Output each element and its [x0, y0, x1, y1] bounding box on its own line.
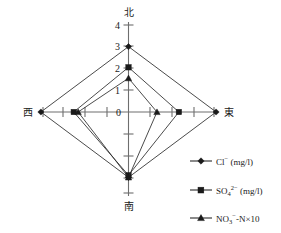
radar-chart-svg: 北 東 南 西 4 3 2 1 0 Cl− (mg/l) SO4	[0, 0, 281, 233]
chart-legend: Cl− (mg/l) SO42− (mg/l) NO3−-N×10	[190, 155, 262, 225]
square-marker	[126, 65, 131, 70]
square-marker	[176, 109, 181, 114]
direction-label-south: 南	[124, 200, 134, 212]
series-polygon	[74, 67, 179, 175]
legend-label-cl-tail: (mg/l)	[228, 157, 253, 167]
direction-label-east: 東	[224, 106, 234, 118]
legend-item-so4[interactable]: SO42− (mg/l)	[190, 184, 262, 197]
legend-label-so4-tail: (mg/l)	[238, 186, 263, 196]
legend-label-no3-base: NO	[216, 214, 229, 224]
legend-label-so4: SO42− (mg/l)	[216, 184, 262, 197]
legend-label-no3-tail: -N×10	[236, 214, 260, 224]
triangle-marker	[125, 75, 131, 81]
radar-chart-figure: 北 東 南 西 4 3 2 1 0 Cl− (mg/l) SO4	[0, 0, 281, 233]
tick-label-4: 4	[115, 20, 120, 31]
diamond-marker	[125, 44, 131, 50]
tick-label-2: 2	[115, 63, 120, 74]
legend-item-cl[interactable]: Cl− (mg/l)	[190, 155, 253, 166]
legend-label-so4-base: SO	[216, 186, 228, 196]
tick-label-origin: 0	[116, 107, 121, 118]
square-icon	[198, 187, 204, 193]
tick-label-1: 1	[115, 85, 120, 96]
diamond-icon	[198, 158, 204, 164]
direction-label-north: 北	[124, 7, 134, 18]
legend-item-no3[interactable]: NO3−-N×10	[190, 212, 260, 225]
legend-label-no3: NO3−-N×10	[216, 212, 260, 225]
legend-label-cl: Cl− (mg/l)	[216, 155, 253, 166]
direction-label-west: 西	[23, 107, 33, 118]
tick-label-3: 3	[115, 41, 120, 52]
series-2	[71, 65, 182, 178]
